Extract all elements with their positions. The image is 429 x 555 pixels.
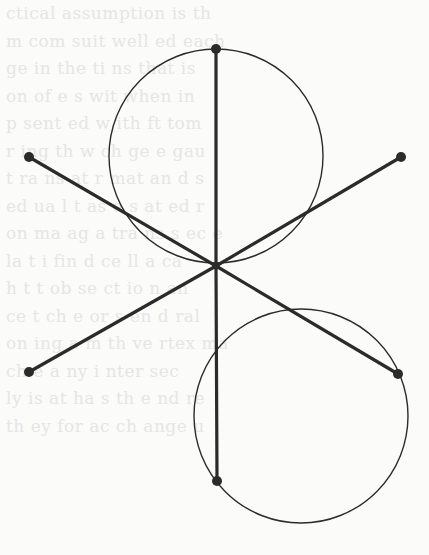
segment-lower-right xyxy=(216,266,398,374)
endpoint-dot-down xyxy=(212,476,222,486)
lower-circle xyxy=(194,309,408,523)
endpoint-dot-lower-right xyxy=(393,369,403,379)
endpoint-dot-upper-left xyxy=(24,152,34,162)
segment-lower-left xyxy=(29,266,216,372)
segment-down xyxy=(216,266,217,481)
center-vertex xyxy=(213,263,220,270)
star-circles-diagram xyxy=(0,0,429,555)
endpoint-dot-upper-right xyxy=(396,152,406,162)
circles-group xyxy=(109,49,408,523)
endpoint-dot-up xyxy=(211,44,221,54)
endpoint-dot-lower-left xyxy=(24,367,34,377)
segment-upper-left xyxy=(29,157,216,266)
segment-upper-right xyxy=(216,157,401,266)
